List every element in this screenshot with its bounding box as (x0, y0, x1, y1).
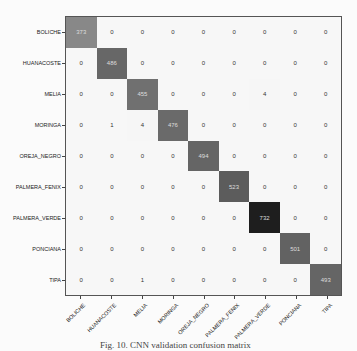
matrix-cell: 0 (219, 48, 250, 79)
y-tick (62, 94, 65, 95)
matrix-cell: 1 (97, 110, 128, 141)
y-tick (62, 280, 65, 281)
matrix-cell: 0 (219, 264, 250, 295)
matrix-cell: 0 (219, 202, 250, 233)
y-tick (62, 218, 65, 219)
matrix-cell: 0 (66, 110, 97, 141)
matrix-cell: 494 (188, 141, 219, 172)
x-axis-label: TIPA (320, 302, 333, 315)
y-axis-label: TIPA (49, 277, 61, 283)
x-tick (173, 296, 174, 299)
x-axis-label: PALMERA_VERDE (233, 302, 271, 340)
matrix-cell: 0 (249, 17, 280, 48)
matrix-cell: 0 (219, 17, 250, 48)
matrix-cell: 0 (280, 17, 311, 48)
x-tick (111, 296, 112, 299)
matrix-cell: 0 (219, 141, 250, 172)
matrix-cell: 0 (127, 17, 158, 48)
matrix-cell: 0 (310, 233, 341, 264)
matrix-cell: 0 (66, 264, 97, 295)
y-tick (62, 249, 65, 250)
matrix-cell: 455 (127, 79, 158, 110)
matrix-cell: 0 (158, 48, 189, 79)
matrix-cell: 0 (310, 202, 341, 233)
matrix-cell: 0 (280, 171, 311, 202)
matrix-cell: 0 (188, 202, 219, 233)
matrix-cell: 0 (158, 141, 189, 172)
matrix-cell: 0 (280, 202, 311, 233)
confusion-matrix: 3730000000004860000000004550004000144760… (65, 16, 342, 296)
matrix-cell: 0 (280, 79, 311, 110)
matrix-cell: 0 (280, 264, 311, 295)
x-axis-label: MORINGA (156, 302, 179, 325)
matrix-cell: 732 (249, 202, 280, 233)
y-axis-label: OREJA_NEGRO (19, 153, 61, 159)
x-axis-label: OREJA_NEGRO (176, 302, 210, 336)
x-axis-label: MELIA (132, 302, 148, 318)
x-tick (234, 296, 235, 299)
matrix-cell: 0 (66, 79, 97, 110)
matrix-cell: 0 (310, 48, 341, 79)
y-axis-label: HUANACOSTE (23, 60, 61, 66)
x-tick (265, 296, 266, 299)
matrix-cell: 501 (280, 233, 311, 264)
matrix-cell: 0 (66, 202, 97, 233)
y-tick (62, 125, 65, 126)
matrix-cell: 0 (66, 171, 97, 202)
matrix-cell: 0 (219, 110, 250, 141)
matrix-cell: 0 (97, 171, 128, 202)
matrix-cell: 0 (158, 202, 189, 233)
matrix-cell: 476 (158, 110, 189, 141)
matrix-cell: 493 (310, 264, 341, 295)
matrix-cell: 0 (158, 171, 189, 202)
matrix-cell: 0 (127, 202, 158, 233)
matrix-cell: 0 (188, 79, 219, 110)
matrix-cell: 0 (249, 264, 280, 295)
matrix-cell: 0 (280, 110, 311, 141)
x-axis-label: PONCIANA (278, 302, 303, 327)
y-tick (62, 156, 65, 157)
matrix-cell: 0 (249, 233, 280, 264)
matrix-cell: 0 (188, 264, 219, 295)
matrix-cell: 0 (280, 141, 311, 172)
matrix-cell: 0 (97, 202, 128, 233)
y-axis-label: MORINGA (35, 122, 61, 128)
x-axis-label: HUANACOSTE (86, 302, 117, 333)
matrix-cell: 0 (158, 79, 189, 110)
x-axis-label: BOLICHE (65, 302, 86, 323)
matrix-cell: 0 (249, 110, 280, 141)
matrix-cell: 0 (310, 141, 341, 172)
matrix-cell: 0 (219, 79, 250, 110)
y-axis-label: PALMERA_FENIX (16, 184, 61, 190)
matrix-cell: 0 (249, 48, 280, 79)
y-axis-label: BOLICHE (37, 29, 61, 35)
y-axis-label: PALMERA_VERDE (13, 215, 61, 221)
matrix-cell: 0 (310, 171, 341, 202)
matrix-cell: 0 (127, 141, 158, 172)
matrix-cell: 0 (66, 233, 97, 264)
matrix-cell: 0 (188, 48, 219, 79)
matrix-cell: 4 (127, 110, 158, 141)
matrix-cell: 0 (127, 48, 158, 79)
matrix-cell: 0 (188, 233, 219, 264)
matrix-cell: 0 (310, 79, 341, 110)
x-tick (142, 296, 143, 299)
matrix-cell: 0 (97, 17, 128, 48)
x-tick (80, 296, 81, 299)
matrix-cell: 0 (280, 48, 311, 79)
matrix-cell: 0 (188, 171, 219, 202)
matrix-cell: 0 (158, 233, 189, 264)
x-tick (327, 296, 328, 299)
matrix-cell: 0 (158, 264, 189, 295)
matrix-cell: 0 (219, 233, 250, 264)
matrix-cell: 0 (66, 48, 97, 79)
matrix-cell: 0 (188, 17, 219, 48)
matrix-cell: 0 (310, 17, 341, 48)
matrix-cell: 1 (127, 264, 158, 295)
matrix-cell: 373 (66, 17, 97, 48)
matrix-cell: 0 (127, 233, 158, 264)
y-tick (62, 187, 65, 188)
x-tick (204, 296, 205, 299)
matrix-cell: 0 (310, 110, 341, 141)
matrix-cell: 0 (249, 141, 280, 172)
